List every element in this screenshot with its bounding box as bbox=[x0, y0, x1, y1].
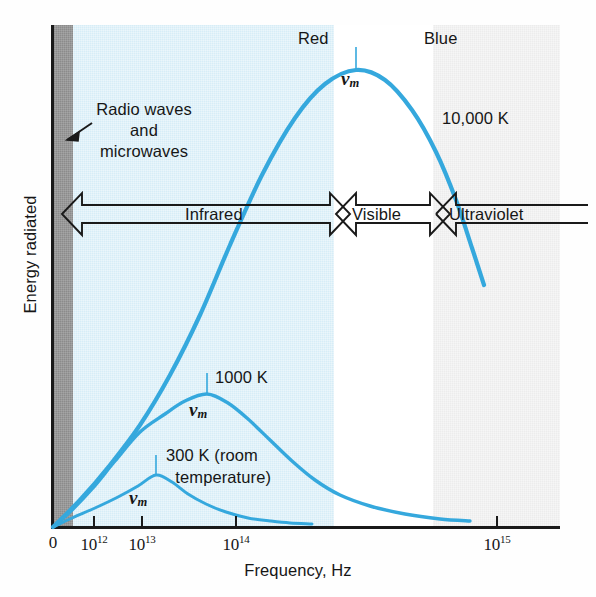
nu-subscript-1000k: m bbox=[197, 407, 207, 421]
x-tick-label-1: 1012 bbox=[80, 533, 107, 555]
radio-waves-annotation: Radio waves and microwaves bbox=[64, 99, 224, 162]
x-tick-label-4: 1015 bbox=[483, 533, 510, 555]
x-tick-1 bbox=[93, 516, 95, 527]
nu-subscript-300k: m bbox=[137, 495, 147, 509]
x-tick-4 bbox=[496, 516, 498, 527]
leader-lines-layer bbox=[0, 0, 596, 597]
nu-m-label-1000k: νm bbox=[189, 399, 207, 422]
curve-label-1000k: 1000 K bbox=[215, 367, 268, 388]
y-axis-title: Energy radiated bbox=[21, 155, 40, 355]
x-tick-label-0: 0 bbox=[49, 533, 57, 553]
blue-label: Blue bbox=[424, 28, 457, 49]
nu-m-label-10000k: νm bbox=[341, 68, 359, 91]
curve-label-10000k: 10,000 K bbox=[442, 108, 509, 129]
red-label: Red bbox=[298, 28, 329, 49]
ultraviolet-arrow-label: Ultraviolet bbox=[449, 205, 523, 224]
infrared-arrow-label: Infrared bbox=[185, 205, 243, 224]
nu-m-label-300k: νm bbox=[129, 487, 147, 510]
x-tick-label-3: 1014 bbox=[222, 533, 249, 555]
x-tick-3 bbox=[235, 516, 237, 527]
x-tick-2 bbox=[141, 516, 143, 527]
blackbody-radiation-figure: Infrared Visible Ultraviolet Radio waves… bbox=[0, 0, 596, 597]
visible-arrow-label: Visible bbox=[352, 205, 401, 224]
x-axis-title: Frequency, Hz bbox=[0, 561, 596, 580]
x-tick-label-2: 1013 bbox=[128, 533, 155, 555]
curve-label-300k: 300 K (room temperature) bbox=[166, 444, 271, 488]
nu-subscript-10000k: m bbox=[349, 76, 359, 90]
